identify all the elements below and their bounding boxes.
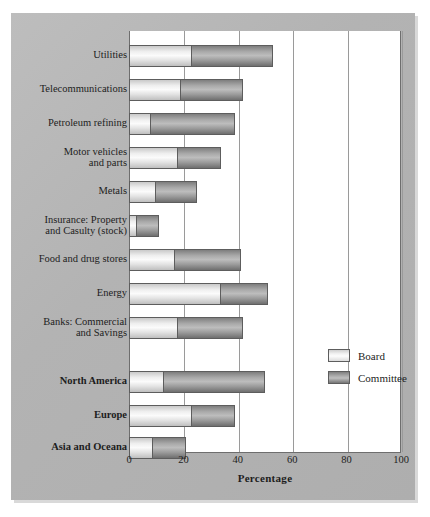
bar-segment-board xyxy=(129,249,175,271)
category-label-line: Metals xyxy=(15,185,127,197)
category-label-line: and Savings xyxy=(15,327,127,339)
bar-segment-committee xyxy=(220,283,267,305)
category-label-line: Europe xyxy=(15,409,127,421)
bar-segment-board xyxy=(129,113,151,135)
bar-segment-board xyxy=(129,317,178,339)
category-label-line: Motor vehicles xyxy=(15,146,127,158)
category-label: Banks: Commercialand Savings xyxy=(15,316,127,339)
legend-swatch-committee-icon xyxy=(328,371,350,384)
bar-segment-committee xyxy=(177,147,222,169)
category-label-line: Petroleum refining xyxy=(15,117,127,129)
category-label: North America xyxy=(15,375,127,387)
chart-legend: Board Committee xyxy=(328,349,407,393)
bar-row xyxy=(130,249,241,271)
chart-page: UtilitiesTelecommunicationsPetroleum ref… xyxy=(0,0,430,517)
category-label: Food and drug stores xyxy=(15,253,127,265)
category-label-line: Insurance: Property xyxy=(15,214,127,226)
x-tick-label: 0 xyxy=(126,454,131,465)
bar-segment-committee xyxy=(136,215,159,237)
bar-row xyxy=(130,317,243,339)
legend-item-committee: Committee xyxy=(328,371,407,384)
category-label-line: Food and drug stores xyxy=(15,253,127,265)
bar-segment-committee xyxy=(191,405,236,427)
category-label-line: Asia and Oceana xyxy=(15,441,127,453)
category-label-line: and parts xyxy=(15,157,127,169)
category-label: Utilities xyxy=(15,49,127,61)
bar-segment-committee xyxy=(180,79,244,101)
bar-segment-board xyxy=(129,79,181,101)
bar-segment-board xyxy=(129,181,156,203)
bar-segment-board xyxy=(129,283,221,305)
bar-segment-committee xyxy=(191,45,274,67)
legend-item-board: Board xyxy=(328,349,407,362)
category-label-line: Utilities xyxy=(15,49,127,61)
bar-row xyxy=(130,215,159,237)
bar-row xyxy=(130,371,265,393)
legend-swatch-board-icon xyxy=(328,349,350,362)
bar-row xyxy=(130,181,197,203)
legend-label-committee: Committee xyxy=(358,372,407,384)
x-tick-label: 60 xyxy=(287,454,298,465)
bar-segment-committee xyxy=(155,181,197,203)
category-label: Asia and Oceana xyxy=(15,441,127,453)
gridline-60 xyxy=(293,31,294,452)
bar-row xyxy=(130,283,268,305)
bar-segment-board xyxy=(129,45,192,67)
category-label: Energy xyxy=(15,287,127,299)
bar-row xyxy=(130,45,273,67)
category-label-line: Telecommunications xyxy=(15,83,127,95)
category-label-line: North America xyxy=(15,375,127,387)
plot-area: Board Committee xyxy=(129,31,401,453)
bar-row xyxy=(130,113,235,135)
x-tick-label: 100 xyxy=(393,454,409,465)
bar-segment-board xyxy=(129,371,164,393)
legend-label-board: Board xyxy=(358,350,385,362)
x-axis-title: Percentage xyxy=(129,472,401,484)
x-tick-label: 40 xyxy=(233,454,244,465)
bar-row xyxy=(130,147,221,169)
category-label: Metals xyxy=(15,185,127,197)
x-tick-label: 20 xyxy=(178,454,189,465)
category-label-line: and Casulty (stock) xyxy=(15,225,127,237)
category-label-line: Energy xyxy=(15,287,127,299)
category-label: Motor vehiclesand parts xyxy=(15,146,127,169)
category-label: Europe xyxy=(15,409,127,421)
bar-segment-committee xyxy=(174,249,240,271)
bar-segment-committee xyxy=(177,317,243,339)
bar-row xyxy=(130,405,235,427)
x-axis-ticks: 020406080100 xyxy=(129,454,401,470)
category-label-line: Banks: Commercial xyxy=(15,316,127,328)
figure-panel: UtilitiesTelecommunicationsPetroleum ref… xyxy=(11,13,415,500)
bar-segment-committee xyxy=(150,113,235,135)
x-tick-label: 80 xyxy=(341,454,352,465)
category-label: Petroleum refining xyxy=(15,117,127,129)
bar-segment-committee xyxy=(163,371,265,393)
category-label: Telecommunications xyxy=(15,83,127,95)
bar-row xyxy=(130,79,243,101)
category-label-column: UtilitiesTelecommunicationsPetroleum ref… xyxy=(15,31,127,453)
bar-segment-board xyxy=(129,405,192,427)
bar-segment-board xyxy=(129,147,178,169)
category-label: Insurance: Propertyand Casulty (stock) xyxy=(15,214,127,237)
